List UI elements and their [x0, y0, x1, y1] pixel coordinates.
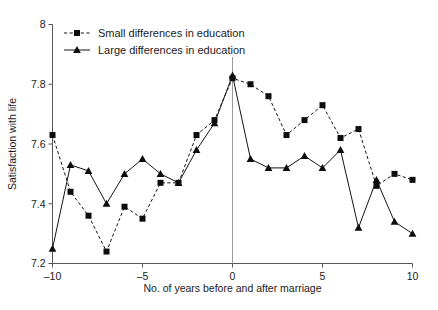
- data-point-square: [104, 249, 110, 255]
- data-point-square: [320, 102, 326, 108]
- data-point-square: [248, 81, 254, 87]
- data-point-square: [266, 93, 272, 99]
- legend-marker-square: [74, 30, 80, 36]
- x-tick-label: 0: [230, 270, 236, 282]
- axis-layer: [49, 25, 413, 268]
- legend-item-small-differences: Small differences in education: [64, 27, 245, 39]
- data-point-triangle: [391, 218, 399, 225]
- data-point-triangle: [337, 146, 345, 153]
- y-tick-label: 7.6: [31, 138, 46, 150]
- x-tick-label: –10: [44, 270, 62, 282]
- y-tick-label: 7.4: [31, 198, 46, 210]
- data-point-triangle: [409, 230, 417, 237]
- x-tick-label: 10: [407, 270, 419, 282]
- chart-figure: 7.27.47.67.88–10–50510No. of years befor…: [0, 0, 438, 310]
- legend-label: Small differences in education: [98, 27, 245, 39]
- axis-label-layer: 7.27.47.67.88–10–50510No. of years befor…: [6, 18, 418, 294]
- data-point-triangle: [193, 146, 201, 153]
- data-point-square: [158, 180, 164, 186]
- data-point-triangle: [103, 200, 111, 207]
- y-tick-label: 8: [40, 18, 46, 30]
- x-axis-title: No. of years before and after marriage: [143, 282, 321, 294]
- chart-legend: Small differences in educationLarge diff…: [64, 27, 245, 56]
- data-point-square: [86, 213, 92, 219]
- data-point-square: [302, 117, 308, 123]
- legend-label: Large differences in education: [98, 44, 245, 56]
- x-tick-label: 5: [320, 270, 326, 282]
- y-axis-title: Satisfaction with life: [6, 98, 18, 190]
- data-point-square: [68, 189, 74, 195]
- data-point-square: [194, 132, 200, 138]
- data-point-triangle: [139, 155, 147, 162]
- data-point-triangle: [355, 224, 363, 231]
- data-point-square: [338, 135, 344, 141]
- data-point-square: [410, 177, 416, 183]
- data-point-square: [122, 204, 128, 210]
- data-point-square: [284, 132, 290, 138]
- data-point-square: [356, 126, 362, 132]
- y-tick-label: 7.2: [31, 257, 46, 269]
- data-point-triangle: [49, 245, 57, 252]
- y-tick-label: 7.8: [31, 78, 46, 90]
- data-point-triangle: [373, 176, 381, 183]
- data-point-square: [50, 132, 56, 138]
- data-point-square: [392, 171, 398, 177]
- data-point-triangle: [247, 155, 255, 162]
- data-point-square: [140, 216, 146, 222]
- x-tick-label: –5: [137, 270, 149, 282]
- legend-item-large-differences: Large differences in education: [64, 44, 245, 56]
- data-point-triangle: [67, 161, 75, 168]
- data-point-triangle: [301, 152, 309, 159]
- data-point-triangle: [229, 71, 237, 78]
- line-chart: 7.27.47.67.88–10–50510No. of years befor…: [0, 0, 438, 310]
